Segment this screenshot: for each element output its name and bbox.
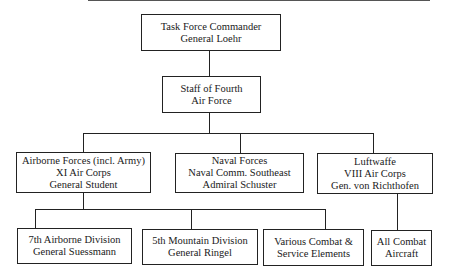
box-line: Air Force [191, 95, 232, 107]
airborne-forces-box: Airborne Forces (incl. Army) XI Air Corp… [16, 152, 151, 193]
naval-forces-box: Naval Forces Naval Comm. Southeast Admir… [175, 153, 304, 193]
all-combat-aircraft-box: All Combat Aircraft [371, 230, 432, 266]
connector [209, 113, 210, 133]
box-line: VIII Air Corps [344, 168, 406, 180]
connector [35, 209, 36, 228]
connector [83, 133, 374, 134]
box-line: Gen. von Richthofen [331, 180, 419, 192]
box-line: Airborne Forces (incl. Army) [22, 155, 145, 167]
connector [325, 209, 326, 229]
box-line: Staff of Fourth [180, 83, 242, 95]
connector [209, 51, 210, 76]
top-rule [88, 0, 430, 1]
box-line: XI Air Corps [56, 167, 111, 179]
box-line: Various Combat & [274, 236, 353, 248]
connector [83, 133, 84, 152]
5th-mountain-division-box: 5th Mountain Division General Ringel [142, 229, 258, 265]
box-line: General Student [50, 179, 118, 191]
7th-airborne-division-box: 7th Airborne Division General Suessmann [17, 228, 132, 264]
box-line: Task Force Commander [161, 21, 262, 33]
connector [191, 209, 192, 229]
box-line: All Combat [377, 236, 426, 248]
box-line: General Ringel [168, 247, 232, 259]
luftwaffe-box: Luftwaffe VIII Air Corps Gen. von Richth… [317, 153, 433, 194]
connector [240, 133, 241, 153]
box-line: Naval Forces [212, 155, 268, 167]
connector [35, 209, 326, 210]
task-force-commander-box: Task Force Commander General Loehr [141, 14, 281, 51]
box-line: General Suessmann [33, 246, 116, 258]
connector [373, 133, 374, 153]
box-line: Naval Comm. Southeast [188, 167, 290, 179]
box-line: 5th Mountain Division [152, 235, 248, 247]
box-line: 7th Airborne Division [28, 234, 120, 246]
box-line: General Loehr [181, 33, 242, 45]
connector [83, 193, 84, 209]
connector [397, 194, 398, 230]
box-line: Luftwaffe [354, 156, 396, 168]
box-line: Admiral Schuster [203, 179, 277, 191]
box-line: Aircraft [385, 248, 418, 260]
various-combat-elements-box: Various Combat & Service Elements [263, 229, 364, 266]
box-line: Service Elements [277, 248, 350, 260]
staff-box: Staff of Fourth Air Force [162, 76, 261, 113]
